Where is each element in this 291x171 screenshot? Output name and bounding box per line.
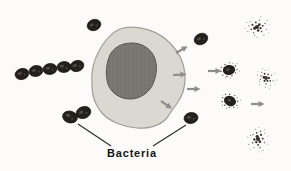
- bacterium-upper-right: [192, 31, 209, 47]
- chain-bacterium: [28, 64, 44, 78]
- debris-cluster: [245, 125, 271, 153]
- bacteria-pair: [61, 104, 92, 124]
- chain-bacterium: [69, 59, 86, 74]
- debris-cluster: [252, 64, 281, 93]
- arrow-icon: [187, 86, 201, 92]
- pointer-line-right: [153, 125, 186, 146]
- arrow-icon: [251, 101, 265, 107]
- bacteria-label: Bacteria: [107, 147, 157, 159]
- bacterium-top: [86, 17, 103, 32]
- bacterium-lower-right: [183, 111, 199, 124]
- disintegrating-bacterium: [218, 90, 243, 113]
- arrow-icon: [175, 44, 190, 56]
- disintegrating-bacterium: [218, 61, 240, 80]
- pair-bacterium: [61, 109, 79, 124]
- chain-bacterium: [57, 61, 72, 73]
- debris-cluster: [245, 16, 270, 38]
- chain-bacterium: [42, 63, 57, 76]
- pointer-line-left: [78, 124, 111, 146]
- chain-bacterium: [14, 67, 30, 81]
- cell-nucleus: [106, 43, 156, 99]
- figure-phagocytosis: Bacteria: [0, 0, 291, 171]
- bacteria-chain: [14, 59, 86, 82]
- arrow-icon: [208, 68, 222, 74]
